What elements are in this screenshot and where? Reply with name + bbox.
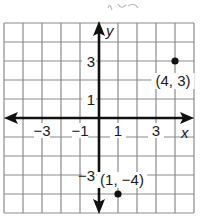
coordinate-plane: xy −3−11331−3 (4, 3)(1, −4) [0, 0, 200, 223]
x-tick-label: −3 [33, 122, 50, 139]
x-tick-label: 1 [114, 122, 122, 139]
x-tick-label: 3 [152, 122, 160, 139]
point-marker [171, 57, 178, 64]
y-tick-label: −3 [78, 167, 95, 184]
point-marker [114, 190, 121, 197]
handwritten-scribble [108, 4, 138, 10]
y-tick-label: 3 [87, 53, 95, 70]
x-tick-label: −1 [71, 122, 88, 139]
y-axis-label: y [105, 22, 115, 39]
point-label: (4, 3) [155, 72, 190, 89]
point-label: (1, −4) [100, 171, 144, 188]
y-tick-label: 1 [87, 91, 95, 108]
x-axis-label: x [180, 124, 189, 141]
